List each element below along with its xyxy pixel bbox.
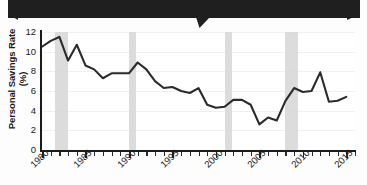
x-tick-2002	[233, 152, 234, 156]
y-tick-label-10: 10	[10, 46, 36, 57]
y-tick-label-2: 2	[10, 124, 36, 135]
data-line-svg	[42, 32, 355, 150]
y-tick-label-6: 6	[10, 85, 36, 96]
x-tick-2007	[277, 152, 278, 156]
chart-root: Personal Savings Rate (%) 024681012 1980…	[0, 0, 367, 185]
x-tick-1992	[146, 152, 147, 156]
x-axis-tick-labels: 19801985199019952000200520102015	[0, 158, 367, 185]
x-tick-2008	[285, 152, 286, 156]
x-tick-1997	[190, 152, 191, 156]
plot-area	[42, 32, 355, 150]
x-tick-2003	[242, 152, 243, 156]
y-axis-tick-labels: 024681012	[8, 32, 36, 150]
x-tick-2012	[320, 152, 321, 156]
series-personal-savings-rate	[42, 37, 346, 125]
x-tick-1988	[112, 152, 113, 156]
x-tick-1982	[59, 152, 60, 156]
y-tick-label-8: 8	[10, 65, 36, 76]
x-tick-1986	[94, 152, 95, 156]
y-tick-label-0: 0	[10, 144, 36, 155]
x-tick-1998	[199, 152, 200, 156]
x-tick-2013	[329, 152, 330, 156]
x-tick-2006	[268, 152, 269, 156]
callout-banner-text	[16, 1, 346, 17]
x-tick-1983	[68, 152, 69, 156]
x-tick-2016	[355, 152, 356, 156]
y-tick-label-12: 12	[10, 26, 36, 37]
x-tick-1987	[103, 152, 104, 156]
line-chart: Personal Savings Rate (%) 024681012 1980…	[0, 22, 367, 185]
y-axis-line	[40, 30, 42, 152]
x-tick-1993	[155, 152, 156, 156]
x-tick-1996	[181, 152, 182, 156]
y-tick-label-4: 4	[10, 105, 36, 116]
